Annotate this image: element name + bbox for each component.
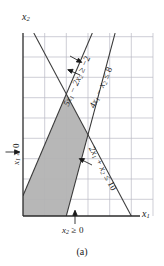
y-axis-label: x2: [22, 12, 30, 23]
constraint-label-x2-nonneg: x2 ≥ 0: [62, 226, 84, 236]
figure-container: x2 x1 5x1 − 2x2 ≥ −2 4x1 − x2 ≤ 8 2x1 + …: [0, 0, 164, 266]
x-axis-label: x1: [142, 209, 150, 220]
figure-caption: (a): [0, 246, 164, 257]
constraint-label-x1-nonneg: x1 ≥ 0: [12, 143, 22, 165]
feasible-region-shading: [23, 94, 88, 216]
